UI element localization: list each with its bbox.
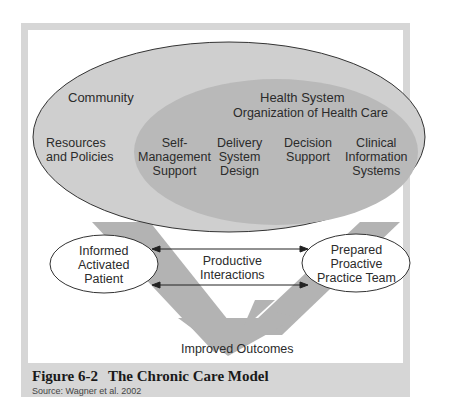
community-label: Community — [68, 91, 134, 105]
outcome-label: Improved Outcomes — [181, 342, 294, 356]
component-clinical-info: Clinical Information Systems — [345, 136, 408, 178]
resources-policies-label: Resources and Policies — [46, 136, 113, 164]
health-system-subtitle: Organization of Health Care — [233, 106, 388, 120]
team-label: Prepared Proactive Practice Team — [317, 243, 396, 285]
patient-label: Informed Activated Patient — [78, 244, 129, 286]
component-decision-support: Decision Support — [284, 136, 332, 164]
component-self-management: Self- Management Support — [138, 136, 211, 178]
figure-caption: Figure 6-2The Chronic Care Model — [32, 368, 269, 385]
interactions-label: Productive Interactions — [200, 254, 265, 282]
figure-title: The Chronic Care Model — [108, 368, 269, 384]
figure-source: Source: Wagner et al. 2002 — [32, 386, 141, 396]
component-delivery-system: Delivery System Design — [217, 136, 262, 178]
health-system-title: Health System — [260, 91, 345, 105]
figure-number: Figure 6-2 — [32, 368, 98, 384]
